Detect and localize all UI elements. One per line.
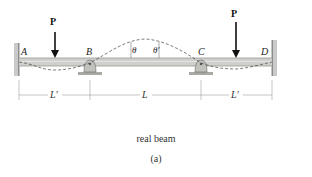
fixed-support-right [272,40,278,76]
label-theta-right: θ′ [153,45,160,55]
dimension-span-bc: L [141,89,148,100]
dimension-span-cd: L′ [230,89,240,100]
label-point-d: D [260,46,269,57]
fixed-support-left [14,43,20,76]
load-arrow-right [232,22,240,58]
label-load-right: P [231,8,237,19]
label-theta-left: θ [132,45,137,55]
beam-diagram: P P A B C D θ θ′ L′ L L′ [0,0,312,177]
dimension-span-ab: L′ [49,89,59,100]
load-arrow-left [51,32,59,58]
caption: real beam [0,133,312,144]
label-point-a: A [20,46,28,57]
label-load-left: P [50,16,56,27]
label-point-c: C [198,46,205,57]
sublabel: (a) [0,153,312,164]
beam [19,58,272,66]
label-point-b: B [86,46,92,57]
